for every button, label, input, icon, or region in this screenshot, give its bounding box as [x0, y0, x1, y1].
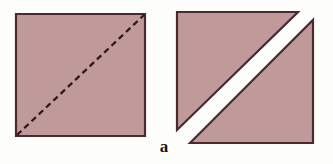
left-figure-square-with-diagonal: [16, 14, 145, 136]
figure-container: a: [0, 0, 333, 164]
figure-caption-label: a: [148, 138, 180, 155]
